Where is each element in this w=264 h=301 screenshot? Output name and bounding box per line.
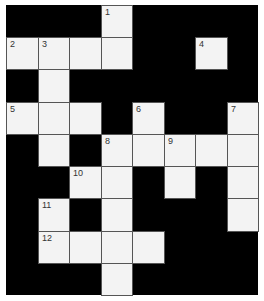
crossword-cell[interactable]: 11	[38, 198, 70, 232]
crossword-cell[interactable]	[101, 231, 133, 264]
clue-number: 5	[10, 105, 15, 114]
clue-number: 6	[136, 105, 141, 114]
crossword-cell[interactable]	[101, 166, 133, 199]
crossword-cell[interactable]	[164, 166, 196, 199]
crossword-cell[interactable]	[227, 166, 259, 199]
crossword-cell[interactable]	[101, 263, 133, 296]
crossword-cell[interactable]	[101, 37, 133, 70]
clue-number: 9	[168, 137, 173, 146]
crossword-cell[interactable]	[195, 134, 228, 167]
crossword-cell[interactable]: 10	[69, 166, 102, 199]
crossword-cell[interactable]	[69, 37, 102, 70]
crossword-cell[interactable]	[69, 102, 102, 135]
crossword-cell[interactable]: 2	[6, 37, 39, 70]
crossword-cell[interactable]	[132, 134, 165, 167]
crossword-cell[interactable]	[132, 231, 165, 264]
crossword-cell[interactable]: 3	[38, 37, 70, 70]
crossword-cell[interactable]: 9	[164, 134, 196, 167]
crossword-cell[interactable]	[38, 134, 70, 167]
crossword-cell[interactable]	[69, 231, 102, 264]
crossword-cell[interactable]	[38, 69, 70, 103]
crossword-cell[interactable]: 12	[38, 231, 70, 264]
crossword-cell[interactable]: 1	[101, 5, 133, 38]
clue-number: 12	[42, 234, 52, 243]
clue-number: 10	[73, 169, 83, 178]
clue-number: 1	[105, 8, 110, 17]
crossword-cell[interactable]	[101, 198, 133, 232]
crossword-cell[interactable]: 6	[132, 102, 165, 135]
crossword-grid: 123456789101112	[6, 5, 258, 295]
crossword-cell[interactable]	[227, 134, 259, 167]
crossword-cell[interactable]	[227, 198, 259, 232]
clue-number: 2	[10, 40, 15, 49]
crossword-cell[interactable]: 8	[101, 134, 133, 167]
clue-number: 3	[42, 40, 47, 49]
clue-number: 7	[231, 105, 236, 114]
clue-number: 11	[42, 201, 51, 210]
crossword-cell[interactable]: 4	[195, 37, 228, 70]
crossword-cell[interactable]	[38, 102, 70, 135]
crossword-cell[interactable]: 5	[6, 102, 39, 135]
clue-number: 8	[105, 137, 110, 146]
crossword-cell[interactable]: 7	[227, 102, 259, 135]
clue-number: 4	[199, 40, 204, 49]
